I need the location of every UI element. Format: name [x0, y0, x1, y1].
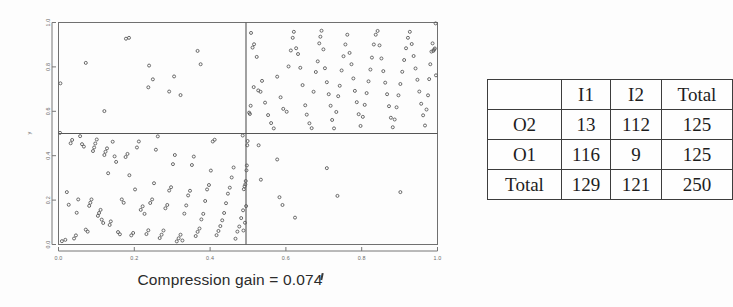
data-point: [173, 154, 176, 157]
data-point: [137, 140, 140, 143]
data-point: [414, 67, 417, 70]
data-point: [103, 154, 106, 157]
data-point: [204, 199, 207, 202]
data-point: [215, 234, 218, 237]
data-point: [148, 64, 151, 67]
data-point: [194, 235, 197, 238]
data-point: [149, 201, 152, 204]
y-tick-label: 0.8: [45, 63, 51, 71]
data-point: [177, 237, 180, 240]
data-point: [323, 67, 326, 70]
y-tick-label: 1.0: [45, 18, 51, 26]
x-tick-label: 0.8: [358, 255, 366, 261]
data-point: [295, 47, 298, 50]
data-point: [428, 78, 431, 81]
data-point: [221, 219, 224, 222]
data-point: [94, 142, 97, 145]
y-axis-ticks: 0.00.20.40.60.81.0: [45, 18, 56, 248]
data-point: [86, 230, 89, 233]
data-point: [179, 94, 182, 97]
data-point: [276, 75, 279, 78]
data-point: [192, 155, 195, 158]
data-point: [132, 231, 135, 234]
table-cell: 125: [662, 110, 733, 140]
data-point: [376, 29, 379, 32]
data-point: [403, 59, 406, 62]
data-point: [397, 94, 400, 97]
x-axis-label-text: Compression gain = 0.074: [138, 271, 323, 288]
x-tick-label: 1.0: [433, 255, 441, 261]
data-point: [187, 194, 190, 197]
data-point: [405, 47, 408, 50]
data-point: [82, 145, 85, 148]
data-point: [79, 135, 82, 138]
data-point: [357, 113, 360, 116]
data-point: [128, 174, 131, 177]
data-point: [151, 78, 154, 81]
table-cell: 250: [662, 170, 733, 200]
data-point: [251, 46, 254, 49]
data-point: [412, 55, 415, 58]
data-point: [102, 221, 105, 224]
data-point: [257, 144, 260, 147]
data-point: [281, 203, 284, 206]
data-points-layer: [59, 22, 438, 243]
data-point: [209, 169, 212, 172]
data-point: [200, 218, 203, 221]
table-cell: 121: [611, 170, 662, 200]
y-tick-label: 0.6: [45, 107, 51, 115]
table-row-header: O2: [488, 110, 562, 140]
data-point: [333, 127, 336, 130]
data-point: [196, 230, 199, 233]
data-point: [337, 95, 340, 98]
data-point: [158, 237, 161, 240]
data-point: [127, 36, 130, 39]
data-point: [246, 140, 249, 143]
data-point: [320, 29, 323, 32]
data-point: [106, 147, 109, 150]
data-point: [118, 233, 121, 236]
contingency-table-wrapper: I1I2TotalO213112125O11169125Total1291212…: [487, 79, 733, 200]
y-axis-label: y: [26, 131, 32, 134]
data-point: [344, 43, 347, 46]
data-point: [202, 212, 205, 215]
data-point: [166, 203, 169, 206]
data-point: [65, 191, 68, 194]
data-point: [272, 127, 275, 130]
y-tick-label: 0.2: [45, 196, 51, 204]
data-point: [219, 225, 222, 228]
data-point: [294, 216, 297, 219]
data-point: [234, 237, 237, 240]
data-point: [160, 233, 163, 236]
data-point: [395, 106, 398, 109]
data-point: [242, 229, 245, 232]
data-point: [71, 138, 74, 141]
data-point: [170, 186, 173, 189]
data-point: [93, 146, 96, 149]
data-point: [429, 63, 432, 66]
data-point: [335, 110, 338, 113]
data-point: [423, 124, 426, 127]
data-point: [355, 101, 358, 104]
data-point: [359, 124, 362, 127]
data-point: [151, 198, 154, 201]
data-point: [124, 156, 127, 159]
data-point: [291, 36, 294, 39]
data-point: [223, 211, 226, 214]
x-tick-label: 0.4: [206, 255, 214, 261]
data-point: [410, 43, 413, 46]
data-point: [147, 229, 150, 232]
data-point: [282, 107, 285, 110]
data-point: [179, 233, 182, 236]
data-point: [75, 211, 78, 214]
data-point: [350, 63, 353, 66]
data-point: [189, 189, 192, 192]
data-point: [190, 164, 193, 167]
data-point: [259, 178, 262, 181]
data-point: [365, 92, 368, 95]
data-point: [240, 217, 243, 220]
table-cell: 9: [611, 140, 662, 170]
data-point: [154, 148, 157, 151]
data-point: [181, 239, 184, 242]
